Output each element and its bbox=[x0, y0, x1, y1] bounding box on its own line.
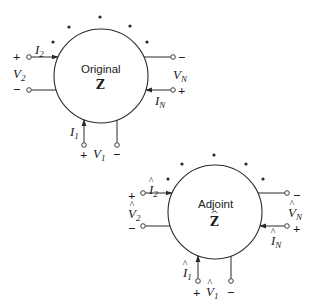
adjoint-matrix-z-hat: ^Z bbox=[210, 216, 219, 228]
portN-plus-terminal bbox=[285, 224, 290, 229]
original-title: Original bbox=[81, 64, 121, 76]
portN-minus-sign: − bbox=[178, 51, 185, 64]
ellipsis-dot bbox=[261, 177, 264, 180]
port2-minus-sign: − bbox=[13, 83, 20, 96]
portN-plus-sign: + bbox=[178, 84, 185, 97]
ellipsis-dot bbox=[67, 25, 70, 28]
port1-minus-sign: − bbox=[113, 148, 120, 161]
original-network-circle bbox=[54, 29, 148, 123]
original-matrix-z: Z bbox=[96, 79, 105, 91]
adj-port1-plus-sign: + bbox=[193, 286, 200, 299]
port1-plus-sign: + bbox=[80, 148, 87, 161]
adj-port2-current-label: ^I2 bbox=[149, 183, 158, 199]
adj-port2-minus-sign: − bbox=[128, 222, 135, 235]
port2-voltage-label: V2 bbox=[13, 67, 25, 83]
adj-port1-voltage-label: ^V1 bbox=[206, 285, 218, 301]
port2-plus-terminal bbox=[27, 55, 32, 60]
ellipsis-dot bbox=[128, 24, 131, 27]
portN-current-label: IN bbox=[155, 94, 165, 110]
ellipsis-dot bbox=[166, 177, 169, 180]
port1-minus-terminal bbox=[229, 279, 234, 284]
adj-port1-minus-sign: − bbox=[227, 286, 234, 299]
adj-port2-voltage-label: ^V2 bbox=[128, 207, 140, 223]
adj-portN-voltage-label: ^VN bbox=[288, 206, 302, 222]
adj-portN-current-label: ^IN bbox=[271, 234, 281, 250]
port1-plus-terminal bbox=[196, 279, 201, 284]
port2-plus-terminal bbox=[141, 191, 146, 196]
ellipsis-dot bbox=[98, 15, 101, 18]
port2-minus-terminal bbox=[27, 88, 32, 93]
ellipsis-dot bbox=[145, 40, 148, 43]
port1-voltage-label: V1 bbox=[93, 147, 105, 163]
adj-portN-plus-sign: + bbox=[293, 222, 300, 235]
portN-minus-terminal bbox=[285, 191, 290, 196]
portN-minus-terminal bbox=[171, 55, 176, 60]
ellipsis-dot bbox=[51, 40, 54, 43]
adj-port1-current-label: ^I1 bbox=[183, 266, 192, 282]
ellipsis-dot bbox=[180, 162, 183, 165]
portN-plus-terminal bbox=[171, 88, 176, 93]
portN-voltage-label: VN bbox=[173, 68, 187, 84]
port1-current-label: I1 bbox=[70, 125, 79, 141]
port2-current-label: I2 bbox=[35, 43, 44, 59]
diagram-canvas bbox=[0, 0, 314, 307]
port2-minus-terminal bbox=[141, 224, 146, 229]
ellipsis-dot bbox=[244, 162, 247, 165]
ellipsis-dot bbox=[212, 153, 215, 156]
port2-plus-sign: + bbox=[13, 50, 20, 63]
